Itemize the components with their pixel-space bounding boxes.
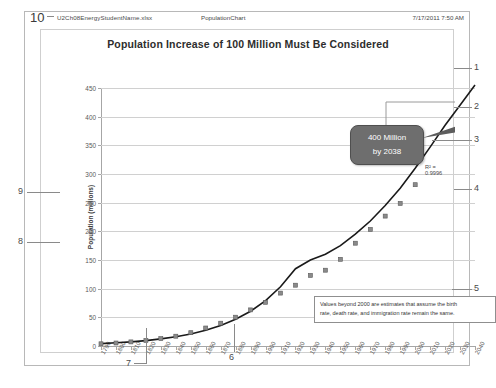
y-axis-tick-label: 250 (85, 199, 96, 206)
callout-bubble[interactable]: 400 Million by 2038 (350, 125, 424, 165)
marker-6[interactable]: 6 (229, 352, 234, 362)
note-line-1: Values beyond 2000 are estimates that as… (320, 302, 457, 308)
marker-8[interactable]: 8 (18, 236, 23, 246)
marker-7-leader-v (146, 328, 147, 364)
sheet-name: PopulationChart (201, 14, 245, 21)
data-point-marker[interactable] (204, 326, 208, 330)
data-point-marker[interactable] (338, 257, 342, 261)
data-point-marker[interactable] (174, 334, 178, 338)
note-box[interactable]: Values beyond 2000 are estimates that as… (314, 296, 496, 323)
marker-2[interactable]: 2 (474, 101, 479, 111)
marker-3[interactable]: 3 (474, 134, 479, 144)
marker-9[interactable]: 9 (18, 186, 23, 196)
marker-1-leader (454, 68, 472, 69)
y-axis-tick-label: 0 (92, 343, 96, 350)
chart-title: Population Increase of 100 Million Must … (41, 38, 455, 50)
data-point-marker[interactable] (99, 342, 103, 346)
y-axis-tick-label: 400 (85, 113, 96, 120)
data-point-marker[interactable] (219, 321, 223, 325)
marker-7-leader-h (134, 363, 146, 364)
data-point-marker[interactable] (398, 201, 402, 205)
chart-container[interactable]: Population Increase of 100 Million Must … (40, 29, 454, 353)
data-point-marker[interactable] (189, 331, 193, 335)
data-point-marker[interactable] (234, 315, 238, 319)
header-dash (47, 16, 54, 17)
y-axis-tick-label: 450 (85, 85, 96, 92)
data-point-marker[interactable] (294, 283, 298, 287)
data-point-marker[interactable] (383, 214, 387, 218)
marker-6-leader (234, 324, 235, 352)
marker-4-leader (454, 189, 472, 190)
marker-2-leader (454, 107, 472, 108)
marker-8-leader (27, 242, 60, 243)
y-axis-tick-label: 150 (85, 257, 96, 264)
r-squared-label: R² = 0.9996 (425, 164, 453, 176)
marker-7[interactable]: 7 (126, 358, 131, 368)
data-point-marker[interactable] (308, 273, 312, 277)
marker-5-leader (452, 289, 472, 290)
data-point-marker[interactable] (413, 183, 417, 187)
print-timestamp: 7/17/2011 7:50 AM (413, 14, 465, 21)
marker-4[interactable]: 4 (474, 183, 479, 193)
y-axis-tick-label: 100 (85, 285, 96, 292)
data-point-marker[interactable] (264, 300, 268, 304)
y-axis-tick-label: 50 (89, 314, 96, 321)
y-axis-title: Population (millions) (87, 185, 94, 249)
data-point-marker[interactable] (159, 337, 163, 341)
printed-page: 10 U2Ch08EnergyStudentName.xlsx Populati… (0, 0, 496, 388)
data-point-marker[interactable] (323, 268, 327, 272)
data-point-marker[interactable] (368, 227, 372, 231)
workbook-filename: U2Ch08EnergyStudentName.xlsx (57, 14, 152, 21)
data-point-marker[interactable] (114, 341, 118, 345)
y-axis-tick-label: 300 (85, 171, 96, 178)
data-point-marker[interactable] (353, 241, 357, 245)
marker-5[interactable]: 5 (474, 283, 479, 293)
data-point-marker[interactable] (279, 291, 283, 295)
data-point-marker[interactable] (129, 340, 133, 344)
page-number: 10 (30, 10, 44, 25)
marker-3-leader (432, 140, 472, 141)
callout-line-2: by 2038 (351, 147, 423, 156)
page-header: 10 U2Ch08EnergyStudentName.xlsx Populati… (30, 14, 464, 26)
y-axis-tick-label: 200 (85, 228, 96, 235)
marker-9-leader (27, 192, 60, 193)
callout-line-1: 400 Million (351, 133, 423, 142)
data-point-marker[interactable] (249, 308, 253, 312)
y-axis-tick-label: 350 (85, 142, 96, 149)
marker-1[interactable]: 1 (474, 62, 479, 72)
note-line-2: rate, death rate, and immigration rate r… (320, 311, 455, 317)
